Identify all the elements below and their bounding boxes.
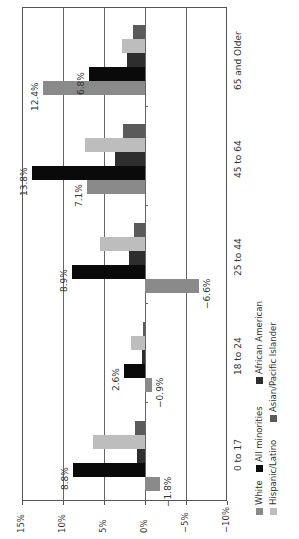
axis-tick-label: −10%	[221, 507, 231, 533]
category-separator-tick	[145, 402, 148, 403]
bar-african-american	[129, 251, 145, 265]
bar-asian-pacific-islander	[133, 25, 145, 39]
legend-swatch	[270, 508, 277, 515]
bar-asian-pacific-islander	[143, 322, 145, 336]
bar-asian-pacific-islander	[135, 421, 145, 435]
bar-african-american	[142, 350, 145, 364]
legend-label: Asian/Pacific Islander	[268, 322, 278, 412]
legend-swatch	[256, 508, 263, 515]
bar-white	[145, 477, 160, 491]
gridline	[186, 8, 187, 500]
axis-tick	[104, 501, 105, 505]
bar-african-american	[127, 53, 145, 67]
legend-item: White	[254, 480, 264, 515]
bar-all-minorities	[124, 364, 145, 378]
data-label: 2.6%	[111, 368, 121, 391]
bar-african-american	[115, 152, 145, 166]
data-label: 13.8%	[19, 168, 29, 197]
data-label: 8.9%	[59, 269, 69, 292]
category-separator-tick	[145, 205, 148, 206]
category-label: 0 to 17	[233, 439, 243, 471]
legend-swatch	[270, 415, 277, 422]
axis-tick-label: −5%	[180, 512, 190, 533]
axis-tick	[186, 501, 187, 505]
category-label: 65 and Older	[233, 31, 243, 90]
category-label: 45 to 64	[233, 140, 243, 178]
axis-tick-label: 10%	[57, 514, 67, 533]
data-label: 7.1%	[74, 185, 84, 208]
legend-item: African American	[254, 301, 264, 384]
data-label: −1.8%	[163, 476, 173, 506]
axis-tick	[227, 501, 228, 505]
data-label: 12.4%	[30, 83, 40, 112]
legend-label: White	[254, 480, 264, 505]
legend-item: All minorities	[254, 406, 264, 472]
axis-tick	[145, 501, 146, 505]
data-label: 8.8%	[60, 467, 70, 490]
bar-white	[43, 81, 145, 95]
legend-label: African American	[254, 301, 264, 374]
axis-tick-label: 5%	[98, 520, 108, 534]
bar-white	[145, 279, 199, 293]
bar-white	[145, 378, 152, 392]
data-label: 6.8%	[76, 72, 86, 95]
data-label: −0.9%	[155, 377, 165, 407]
bar-african-american	[137, 449, 145, 463]
axis-tick	[63, 501, 64, 505]
category-separator-tick	[145, 106, 148, 107]
legend-item: Asian/Pacific Islander	[268, 322, 278, 422]
bar-all-minorities	[72, 265, 145, 279]
axis-tick-label: 0%	[139, 520, 149, 534]
legend-label: Hispanic/Latino	[268, 440, 278, 505]
axis-tick	[22, 501, 23, 505]
bar-hispanic-latino	[85, 138, 145, 152]
legend-item: Hispanic/Latino	[268, 440, 278, 515]
bar-hispanic-latino	[93, 435, 145, 449]
category-label: 18 to 24	[233, 338, 243, 376]
gridline	[145, 8, 146, 500]
bar-all-minorities	[89, 67, 145, 81]
category-label: 25 to 44	[233, 239, 243, 277]
bar-all-minorities	[73, 463, 145, 477]
bar-white	[87, 180, 145, 194]
bar-hispanic-latino	[122, 39, 145, 53]
category-separator-tick	[145, 303, 148, 304]
bar-all-minorities	[32, 166, 145, 180]
bar-asian-pacific-islander	[123, 124, 145, 138]
bar-hispanic-latino	[131, 336, 145, 350]
axis-tick-label: 15%	[16, 514, 26, 533]
legend-swatch	[256, 465, 263, 472]
bar-asian-pacific-islander	[134, 223, 145, 237]
bar-hispanic-latino	[100, 237, 145, 251]
legend-swatch	[256, 377, 263, 384]
legend-label: All minorities	[254, 406, 264, 462]
data-label: −6.6%	[202, 279, 212, 309]
